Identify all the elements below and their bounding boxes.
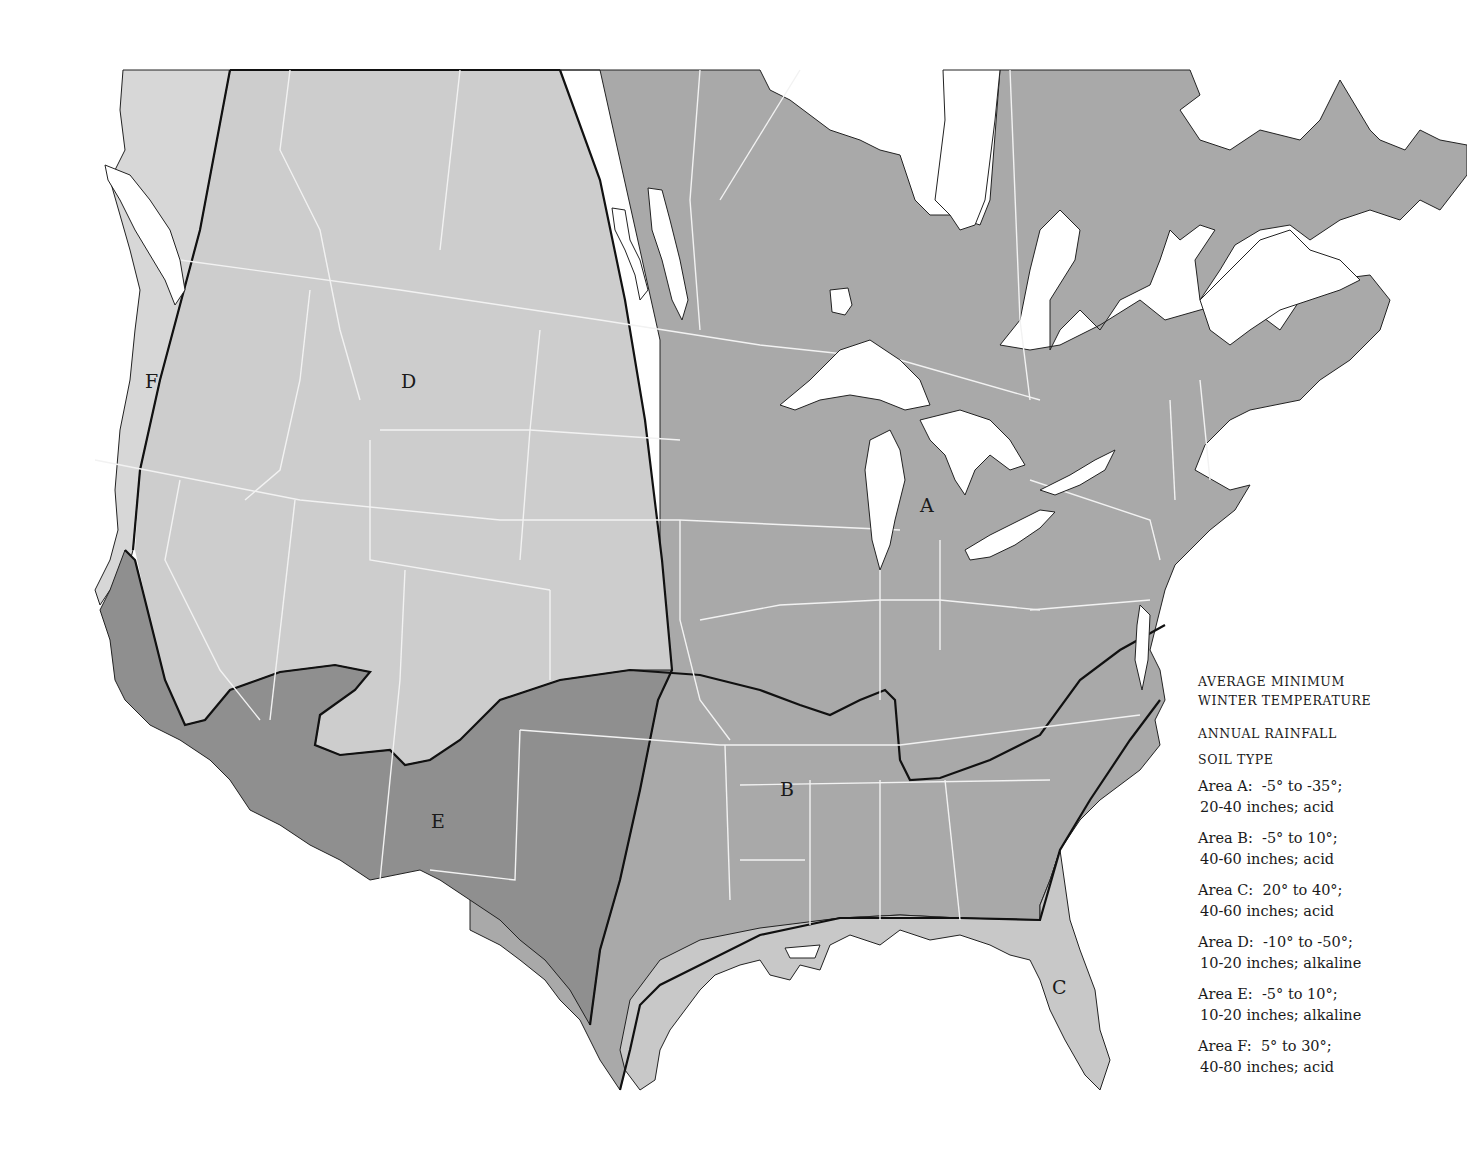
zone-label-e: E [431, 810, 445, 832]
zone-label-b: B [780, 778, 794, 800]
legend-rainfall-soil: 10-20 inches; alkaline [1198, 953, 1458, 974]
map-legend: AVERAGE MINIMUM WINTER TEMPERATURE ANNUA… [1198, 672, 1458, 1088]
legend-rainfall-soil: 40-60 inches; acid [1198, 849, 1458, 870]
legend-entry-b: Area B: -5° to 10°; 40-60 inches; acid [1198, 828, 1458, 870]
legend-area-name: Area C: [1198, 882, 1253, 898]
legend-area-name: Area B: [1198, 830, 1253, 846]
legend-entry-a: Area A: -5° to -35°; 20-40 inches; acid [1198, 776, 1458, 818]
zone-label-c: C [1052, 976, 1067, 998]
zone-label-d: D [401, 370, 416, 392]
legend-temperature: 5° to 30°; [1261, 1038, 1332, 1054]
legend-entry-d: Area D: -10° to -50°; 10-20 inches; alka… [1198, 932, 1458, 974]
legend-entry-c: Area C: 20° to 40°; 40-60 inches; acid [1198, 880, 1458, 922]
legend-rainfall-soil: 40-60 inches; acid [1198, 901, 1458, 922]
legend-entry-f: Area F: 5° to 30°; 40-80 inches; acid [1198, 1036, 1458, 1078]
legend-heading-soil: SOIL TYPE [1198, 750, 1458, 769]
legend-area-name: Area E: [1198, 986, 1253, 1002]
legend-temperature: -10° to -50°; [1263, 934, 1353, 950]
legend-rainfall-soil: 40-80 inches; acid [1198, 1057, 1458, 1078]
legend-area-name: Area D: [1198, 934, 1254, 950]
legend-heading-rainfall: ANNUAL RAINFALL [1198, 724, 1458, 743]
legend-temperature: -5° to -35°; [1262, 778, 1343, 794]
legend-entry-e: Area E: -5° to 10°; 10-20 inches; alkali… [1198, 984, 1458, 1026]
legend-heading-temperature-line2: WINTER TEMPERATURE [1198, 691, 1458, 710]
legend-rainfall-soil: 10-20 inches; alkaline [1198, 1005, 1458, 1026]
zone-label-a: A [919, 494, 934, 516]
legend-heading-temperature-line1: AVERAGE MINIMUM [1198, 672, 1458, 691]
legend-temperature: -5° to 10°; [1262, 830, 1338, 846]
legend-area-name: Area F: [1198, 1038, 1252, 1054]
legend-rainfall-soil: 20-40 inches; acid [1198, 797, 1458, 818]
legend-area-name: Area A: [1198, 778, 1253, 794]
zone-label-f: F [145, 370, 158, 392]
legend-temperature: -5° to 10°; [1262, 986, 1338, 1002]
legend-temperature: 20° to 40°; [1262, 882, 1342, 898]
